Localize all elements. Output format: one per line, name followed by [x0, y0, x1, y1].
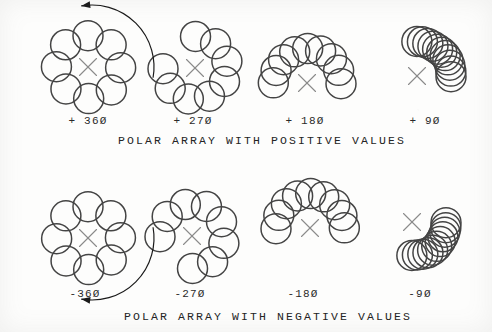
polar-array-cell-pos-90 [402, 26, 466, 91]
ccw-rotation-arrow [81, 1, 154, 77]
array-member-circle [209, 228, 239, 258]
array-angle-label-pos-90: + 9Ø [409, 115, 440, 127]
array-member-circle [178, 253, 208, 283]
array-member-circle [173, 84, 203, 114]
polar-array-cell-pos-270 [148, 21, 242, 113]
array-member-circle [271, 189, 301, 219]
array-member-circle [152, 201, 182, 231]
section-caption-negative: POLAR ARRAY WITH NEGATIVE VALUES [124, 310, 412, 323]
rotation-arc [81, 5, 154, 78]
polar-array-cell-neg-270 [145, 189, 239, 283]
array-member-circle [316, 44, 346, 74]
arrowhead [81, 1, 90, 8]
array-member-circle [181, 21, 211, 51]
array-angle-label-pos-360: + 36Ø [68, 115, 107, 127]
array-member-circle [269, 45, 299, 75]
section-caption-positive: POLAR ARRAY WITH POSITIVE VALUES [118, 134, 406, 147]
array-member-circle [402, 26, 432, 56]
array-member-circle [148, 54, 178, 84]
array-member-circle [436, 56, 466, 86]
section-positive [41, 1, 466, 114]
array-member-circle [155, 73, 185, 103]
polar-array-drawing [0, 0, 492, 332]
array-angle-label-neg-270: -27Ø [174, 288, 205, 300]
array-angle-label-neg-90: -9Ø [408, 288, 431, 300]
array-angle-label-pos-180: + 18Ø [285, 115, 324, 127]
array-member-circle [212, 46, 242, 76]
array-member-circle [170, 189, 200, 219]
array-member-circle [320, 190, 350, 220]
polar-array-diagram-page: + 36Ø+ 27Ø+ 18Ø+ 9ØPOLAR ARRAY WITH POSI… [0, 0, 492, 332]
array-member-circle [198, 247, 228, 277]
array-member-circle [207, 207, 237, 237]
section-negative [42, 179, 461, 304]
array-angle-label-pos-270: + 27Ø [173, 115, 212, 127]
array-member-circle [201, 29, 231, 59]
polar-array-cell-neg-180 [261, 179, 359, 244]
array-angle-label-neg-180: -18Ø [287, 288, 318, 300]
array-member-circle [145, 222, 175, 252]
polar-array-cell-neg-360 [42, 192, 136, 285]
polar-array-cell-pos-180 [258, 34, 356, 99]
array-member-circle [191, 191, 221, 221]
polar-array-cell-neg-90 [397, 208, 461, 271]
array-member-circle [402, 240, 432, 270]
array-member-circle [413, 28, 443, 58]
array-angle-label-neg-360: -36Ø [69, 288, 100, 300]
polar-array-cell-pos-360 [41, 21, 135, 114]
